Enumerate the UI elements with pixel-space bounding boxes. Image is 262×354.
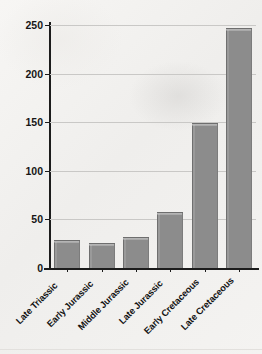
y-tick-mark xyxy=(45,122,50,123)
x-tick-mark xyxy=(67,268,68,272)
x-tick-mark xyxy=(102,268,103,272)
gridline xyxy=(50,25,256,26)
y-tick-label: 100 xyxy=(25,165,43,177)
bar[interactable] xyxy=(54,240,80,268)
bar[interactable] xyxy=(192,123,218,268)
plot-area: 050100150200250 xyxy=(50,25,256,268)
x-axis-line xyxy=(44,268,259,270)
y-tick-label: 0 xyxy=(37,262,43,274)
x-tick-mark xyxy=(170,268,171,272)
bar[interactable] xyxy=(157,212,183,268)
x-tick-mark xyxy=(205,268,206,272)
bar[interactable] xyxy=(123,237,149,268)
y-tick-label: 50 xyxy=(31,213,43,225)
y-tick-mark xyxy=(45,74,50,75)
bar[interactable] xyxy=(226,28,252,268)
y-tick-label: 250 xyxy=(25,19,43,31)
y-axis-line xyxy=(49,22,51,270)
y-tick-mark xyxy=(45,171,50,172)
y-tick-label: 200 xyxy=(25,68,43,80)
bar[interactable] xyxy=(89,243,115,268)
y-tick-mark xyxy=(45,219,50,220)
x-tick-mark xyxy=(239,268,240,272)
bottom-rule xyxy=(0,349,262,350)
x-tick-mark xyxy=(136,268,137,272)
y-tick-mark xyxy=(45,268,50,269)
bar-chart-figure: Number of genera (groups) 05010015020025… xyxy=(0,0,262,354)
y-tick-mark xyxy=(45,25,50,26)
y-tick-label: 150 xyxy=(25,116,43,128)
